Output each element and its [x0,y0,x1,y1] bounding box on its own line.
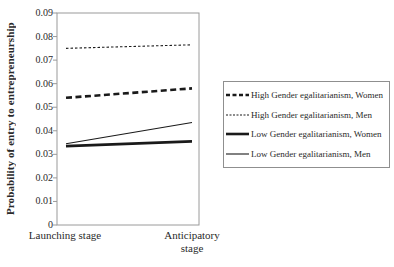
y-tick-label: 0.09 [19,7,53,19]
y-tick-label: 0.03 [19,148,53,160]
legend-item: Low Gender egalitarianism, Men [226,149,387,159]
legend: High Gender egalitarianism, WomenHigh Ge… [223,81,390,168]
legend-label: Low Gender egalitarianism, Women [251,129,382,139]
y-tick-label: 0.08 [19,31,53,43]
legend-item: Low Gender egalitarianism, Women [226,129,387,139]
legend-sample-line [226,91,249,99]
legend-item: High Gender egalitarianism, Women [226,90,387,100]
y-tick-label: 0.07 [19,54,53,66]
y-tick-label: 0.06 [19,78,53,90]
y-tick-label: 0.01 [19,195,53,207]
legend-label: Low Gender egalitarianism, Men [251,149,370,159]
legend-label: High Gender egalitarianism, Women [251,90,383,100]
x-axis-label-launching-stage: Launching stage [4,229,126,242]
x-axis-label-anticipatory-stage: Anticipatory stage [152,229,232,255]
series-line-2 [66,141,192,146]
legend-sample-line [226,130,249,138]
series-line-3 [66,123,192,144]
y-tick-label: 0.05 [19,101,53,113]
y-axis-title: Probability of entry to entrepreneurship [1,13,18,225]
legend-item: High Gender egalitarianism, Men [226,110,387,120]
series-line-0 [66,88,192,97]
legend-sample-line [226,150,249,158]
legend-label: High Gender egalitarianism, Men [251,110,372,120]
figure: Probability of entry to entrepreneurship… [0,0,394,267]
series-line-1 [66,45,192,49]
y-tick-label: 0.02 [19,172,53,184]
plot-frame [57,13,199,225]
legend-sample-line [226,111,249,119]
y-tick-label: 0.04 [19,125,53,137]
